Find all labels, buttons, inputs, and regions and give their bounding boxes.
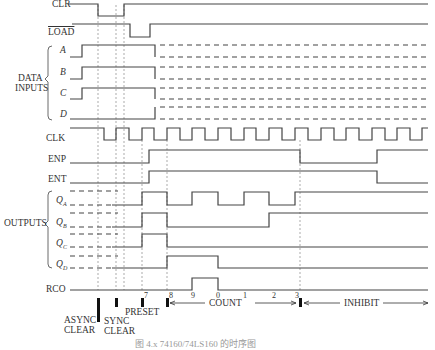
- d-label: D: [60, 110, 67, 120]
- load-waveform: [72, 24, 428, 37]
- clr-label: CLR: [52, 0, 70, 10]
- a-label: A: [60, 46, 66, 56]
- count-8: 8: [169, 292, 173, 300]
- sync-clear-marker: [115, 298, 118, 307]
- inhibit-start-marker: [299, 298, 302, 307]
- rco-label: RCO: [46, 285, 66, 295]
- count-label: COUNT: [209, 299, 242, 309]
- async-clear-label-2: CLEAR: [64, 326, 95, 336]
- ent-label: ENT: [48, 175, 66, 185]
- qc-waveform: [112, 234, 428, 247]
- b-label: B: [60, 68, 66, 78]
- outputs-brace: [45, 191, 52, 268]
- count-7: 7: [144, 292, 148, 300]
- data-inputs-label-2: INPUTS: [15, 84, 48, 94]
- load-label: LOAD: [48, 28, 74, 38]
- count-9: 9: [191, 292, 195, 300]
- outputs-label: OUTPUTS: [4, 219, 47, 229]
- async-clear-marker: [97, 298, 100, 322]
- c-label: C: [60, 89, 66, 99]
- preset-label: PRESET: [125, 308, 159, 318]
- qa-label: QA: [56, 196, 67, 207]
- qb-label: QB: [56, 218, 67, 229]
- qc-label: QC: [56, 239, 67, 250]
- qb-waveform: [112, 213, 428, 227]
- count-3: 3: [295, 292, 299, 300]
- inhibit-label: INHIBIT: [344, 299, 379, 309]
- qd-waveform: [112, 256, 428, 268]
- clr-waveform: [68, 4, 428, 16]
- d-waveform: [70, 107, 155, 119]
- b-waveform: [70, 67, 155, 79]
- c-waveform: [70, 88, 155, 99]
- count-2: 2: [272, 292, 276, 300]
- qd-label: QD: [56, 260, 67, 271]
- a-waveform: [70, 45, 155, 57]
- figure-caption: 图 4.x 74160/74LS160 的时序图: [135, 337, 256, 350]
- clk-label: CLK: [46, 134, 65, 144]
- enp-label: ENP: [48, 155, 66, 165]
- sync-clear-label-2: CLEAR: [104, 327, 135, 337]
- rco-waveform: [70, 278, 428, 290]
- count-1: 1: [243, 292, 247, 300]
- qa-waveform: [112, 192, 428, 205]
